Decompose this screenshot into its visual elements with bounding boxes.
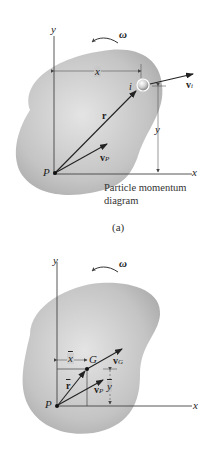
- dim-ybar-label: y: [107, 381, 112, 392]
- caption-line2: diagram: [104, 196, 138, 207]
- figure-label-a: (a): [112, 222, 124, 233]
- velocity-vi-label: vi: [186, 80, 193, 90]
- axis-y-label-b: y: [53, 255, 58, 266]
- caption-line1: Particle momentum: [104, 183, 187, 194]
- velocity-vp-label-a: vP: [100, 153, 109, 163]
- point-p-label-a: P: [43, 167, 50, 178]
- omega-label-a: ω: [119, 29, 127, 40]
- position-rbar-label: r: [66, 381, 70, 391]
- axis-x-label-b: x: [193, 400, 198, 411]
- point-p-label-b: P: [45, 399, 52, 410]
- center-g-label: G: [89, 354, 97, 365]
- particle-i-label: i: [129, 82, 132, 92]
- dim-y-label-a: y: [155, 124, 160, 135]
- dim-x-label-a: x: [94, 66, 101, 77]
- omega-label-b: ω: [119, 258, 127, 269]
- velocity-vp-label-b: vP: [94, 385, 103, 395]
- axis-x-label-a: x: [192, 167, 197, 178]
- particle-i: [137, 79, 149, 91]
- position-r-label-a: r: [102, 111, 106, 121]
- velocity-vg-label: vG: [113, 356, 123, 366]
- rigid-body-a: [16, 50, 163, 195]
- dim-xbar-label: x: [67, 353, 74, 364]
- axis-y-label-a: y: [51, 24, 56, 35]
